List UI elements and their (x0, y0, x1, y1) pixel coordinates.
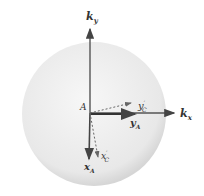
kx-label: kx (180, 107, 193, 122)
xA-axis (89, 113, 90, 159)
ky-label: ky (86, 10, 99, 25)
sphere-axes-diagram: ky kx A yA xA y′C x′C (0, 0, 204, 196)
origin-label: A (79, 102, 87, 112)
